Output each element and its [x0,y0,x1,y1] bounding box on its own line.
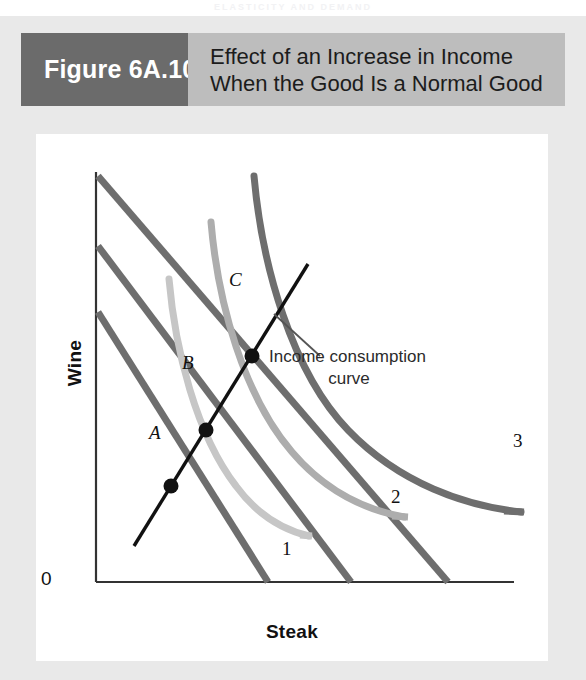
point-b-label: B [182,352,194,374]
annotation-line-2: curve [269,368,429,390]
income-consumption-curve-annotation: Income consumption curve [269,346,469,390]
curve-1-tick [300,535,312,536]
curve-2-tick [392,516,408,517]
indifference-curve-1-label: 1 [282,538,292,560]
figure-number-block: Figure 6A.10 [21,33,188,106]
indifference-curve-2-label: 2 [391,486,401,508]
figure-header: Figure 6A.10 Effect of an Increase in In… [21,33,565,106]
figure-number-label: Figure 6A.10 [44,55,196,84]
point-c-label: C [229,269,242,291]
chart-graphic [36,134,548,661]
origin-label: 0 [41,568,52,590]
point-a-marker [164,479,179,494]
point-a-label: A [149,422,161,444]
running-head: ELASTICITY AND DEMAND [0,0,586,16]
figure-title-block: Effect of an Increase in Income When the… [188,33,565,106]
x-axis-title: Steak [36,621,548,643]
annotation-line-1: Income consumption [269,347,426,366]
y-axis-title: Wine [64,318,86,408]
point-c-marker [245,349,260,364]
figure-title-line-1: Effect of an Increase in Income [210,43,565,70]
chart-panel: Wine Steak 0 A B C 1 2 3 Income consumpt… [36,134,548,661]
figure-page-background: Figure 6A.10 Effect of an Increase in In… [0,16,586,680]
point-b-marker [199,423,214,438]
indifference-curve-3 [254,176,521,512]
curve-3-tick [504,511,524,512]
figure-title-line-2: When the Good Is a Normal Good [210,70,565,97]
indifference-curve-3-label: 3 [513,430,523,452]
